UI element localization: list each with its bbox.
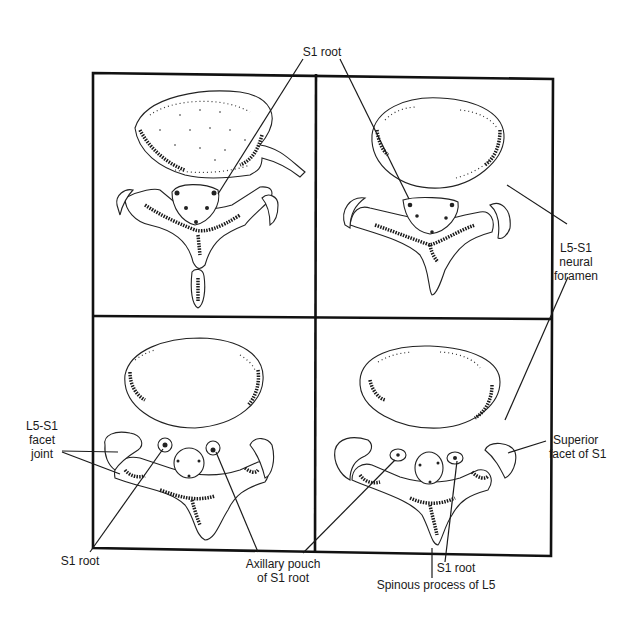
vertebral-body-tr: [372, 98, 504, 188]
spinous-process-tl: [191, 269, 205, 308]
label-foramen-3: foramen: [554, 269, 598, 283]
horizontal-divider: [93, 316, 552, 319]
panel-bottom-left: [105, 338, 274, 540]
vertical-divider: [315, 74, 316, 553]
label-foramen-2: neural: [559, 255, 592, 269]
label-s1-root-top: S1 root: [303, 45, 342, 59]
label-axillary-pouch-1: Axillary pouch: [246, 557, 321, 571]
label-superior-facet-2: facet of S1: [549, 447, 607, 461]
superior-facet-s1-br: [485, 443, 516, 478]
vertebral-body: [135, 91, 305, 178]
leader-superior-facet: [508, 441, 546, 453]
anatomy-figure: S1 root L5-S1 neural foramen L5-S1 facet…: [0, 0, 636, 629]
thecal-sac-bl: [174, 448, 204, 478]
label-s1-root-bl: S1 root: [61, 554, 100, 568]
facet-right-tl: [262, 195, 278, 225]
vertebral-body-br: [360, 346, 500, 428]
label-facet-joint-1: L5-S1: [26, 419, 58, 433]
label-s1-root-br: S1 root: [437, 561, 476, 575]
leader-foramen-br: [505, 277, 568, 420]
panel-top-right: [344, 98, 511, 295]
leader-foramen-tr: [507, 185, 567, 224]
vertebral-body-bl: [125, 338, 263, 428]
label-superior-facet-1: Superior: [553, 433, 598, 447]
panel-top-left: [117, 91, 305, 308]
thecal-sac-br: [415, 452, 443, 484]
label-axillary-pouch-2: of S1 root: [257, 571, 310, 585]
label-foramen-1: L5-S1: [560, 241, 592, 255]
label-facet-joint-3: joint: [30, 447, 54, 461]
label-spinous-process: Spinous process of L5: [377, 578, 496, 592]
panel-bottom-right: [335, 346, 516, 545]
label-facet-joint-2: facet: [29, 433, 56, 447]
figure-canvas: S1 root L5-S1 neural foramen L5-S1 facet…: [0, 0, 636, 629]
